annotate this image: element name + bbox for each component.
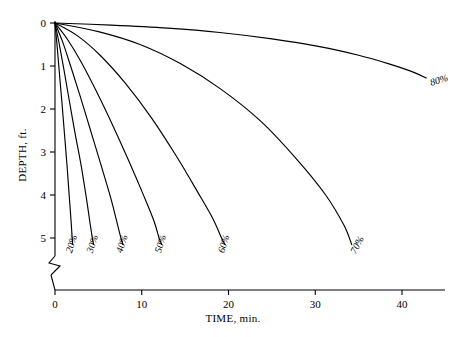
axes: 012345010203040 (41, 17, 446, 310)
series-curve-50pct (55, 23, 162, 244)
y-axis-tick-label: 5 (41, 232, 47, 244)
y-axis-tick-label: 2 (41, 103, 47, 115)
curve-labels: 20%30%40%50%60%70%80% (63, 72, 449, 256)
curves (55, 23, 426, 244)
x-axis-tick-label: 20 (223, 298, 235, 310)
curve-label-60pct: 60% (215, 233, 231, 254)
curve-label-30pct: 30% (84, 233, 100, 255)
x-axis-tick-label: 30 (310, 298, 322, 310)
y-axis-break-symbol (49, 256, 60, 275)
curve-label-40pct: 40% (114, 233, 130, 254)
y-axis-line-lower (51, 275, 55, 290)
y-axis-tick-label: 1 (41, 60, 47, 72)
series-curve-30pct (55, 23, 94, 244)
x-axis-tick-label: 10 (136, 298, 148, 310)
curve-label-70pct: 70% (348, 234, 366, 255)
curve-label-80pct: 80% (429, 72, 450, 88)
axis-titles: DEPTH, ft.TIME, min. (16, 128, 261, 324)
series-curve-80pct (55, 23, 426, 78)
y-axis-title: DEPTH, ft. (16, 128, 28, 181)
x-axis-tick-label: 0 (52, 298, 58, 310)
depth-vs-time-chart: 012345010203040 20%30%40%50%60%70%80% DE… (0, 0, 466, 337)
series-curve-70pct (55, 23, 352, 244)
curve-label-20pct: 20% (63, 233, 79, 254)
chart-figure: 012345010203040 20%30%40%50%60%70%80% DE… (0, 0, 466, 337)
series-curve-20pct (55, 23, 73, 244)
series-curve-60pct (55, 23, 225, 244)
curve-label-50pct: 50% (152, 233, 168, 254)
series-curve-40pct (55, 23, 123, 244)
x-axis-title: TIME, min. (205, 312, 260, 324)
y-axis-tick-label: 4 (41, 189, 47, 201)
y-axis-tick-label: 0 (41, 17, 47, 29)
x-axis-tick-label: 40 (397, 298, 409, 310)
y-axis-tick-label: 3 (41, 146, 47, 158)
